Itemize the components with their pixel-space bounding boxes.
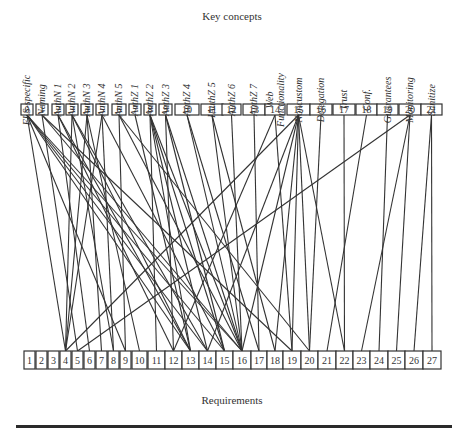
concept-label: Monitoring xyxy=(404,77,415,124)
concept-node: 5AuthN 4 xyxy=(96,83,108,117)
requirement-node: 22 xyxy=(336,351,353,369)
requirement-id: 9 xyxy=(123,355,128,366)
concept-label: ELS-specific xyxy=(21,74,32,126)
concept-node: 2AuthN 1 xyxy=(52,83,64,117)
requirement-id: 12 xyxy=(169,355,179,366)
requirement-id: 21 xyxy=(322,355,332,366)
concept-node: 16Delegation xyxy=(310,78,332,123)
concept-label: AuthZ 7 xyxy=(248,83,259,117)
requirement-id: 23 xyxy=(357,355,367,366)
requirement-id: 27 xyxy=(427,355,437,366)
requirement-node: 26 xyxy=(405,351,423,369)
requirement-id: 4 xyxy=(63,355,68,366)
requirement-node: 5 xyxy=(72,351,83,369)
concept-label: IAuthZ 5 xyxy=(206,82,217,118)
concept-label: Naming xyxy=(36,84,47,117)
concept-requirement-edge xyxy=(150,115,208,351)
concept-requirement-edge xyxy=(299,115,310,351)
concept-node: 14WebFunctionality xyxy=(264,73,286,128)
concept-label: AuthZ 2 xyxy=(144,84,155,117)
requirement-node: 13 xyxy=(182,351,199,369)
requirement-node: 27 xyxy=(423,351,441,369)
requirement-id: 15 xyxy=(220,355,230,366)
requirement-node: 7 xyxy=(96,351,107,369)
concept-label: AuthN 1 xyxy=(52,83,63,117)
requirement-id: 25 xyxy=(392,355,402,366)
requirement-node: 25 xyxy=(388,351,405,369)
requirement-node: 9 xyxy=(120,351,131,369)
concept-label: Conf. xyxy=(361,89,372,111)
concept-requirement-edge xyxy=(27,115,191,351)
requirement-id: 13 xyxy=(186,355,196,366)
concept-label: AuthN 4 xyxy=(96,83,107,117)
concept-requirement-edge xyxy=(174,115,276,351)
concept-node: 7AuthZ 1 xyxy=(129,84,141,117)
concept-label: Guarantees xyxy=(382,77,393,124)
concept-label: AuthN 3 xyxy=(81,83,92,117)
concept-requirement-edge xyxy=(310,115,322,351)
requirement-id: 5 xyxy=(75,355,80,366)
requirement-node: 24 xyxy=(370,351,388,369)
concept-requirement-edge xyxy=(432,115,433,351)
requirement-id: 22 xyxy=(340,355,350,366)
requirement-id: 26 xyxy=(409,355,419,366)
concept-node: 1Naming xyxy=(36,84,48,117)
requirement-id: 18 xyxy=(270,355,280,366)
requirement-id: 10 xyxy=(135,355,145,366)
requirement-node: 18 xyxy=(267,351,283,369)
requirement-id: 8 xyxy=(111,355,116,366)
requirements-title: Requirements xyxy=(0,394,464,406)
requirement-node: 4 xyxy=(60,351,71,369)
concept-node: 20Monitoring xyxy=(399,77,421,124)
requirement-id: 6 xyxy=(87,355,92,366)
concept-requirement-edge xyxy=(344,115,345,351)
requirement-node: 17 xyxy=(251,351,267,369)
requirement-id: 2 xyxy=(39,355,44,366)
requirement-node: 3 xyxy=(48,351,59,369)
requirement-id: 1 xyxy=(27,355,32,366)
concept-label: AuthN 2 xyxy=(66,83,77,117)
requirement-node: 8 xyxy=(108,351,119,369)
requirement-node: 20 xyxy=(301,351,318,369)
requirement-id: 7 xyxy=(99,355,104,366)
concept-node: 3AuthN 2 xyxy=(66,83,78,117)
requirement-id: 20 xyxy=(305,355,315,366)
concept-requirement-edge xyxy=(414,115,432,351)
requirement-node: 10 xyxy=(132,351,147,369)
concept-requirement-edge xyxy=(242,115,299,351)
requirement-id: 17 xyxy=(254,355,264,366)
requirement-id: 3 xyxy=(51,355,56,366)
concept-requirement-edge xyxy=(232,115,243,351)
concept-node: 12AuthZ 6 xyxy=(222,84,241,117)
requirement-node: 12 xyxy=(165,351,182,369)
requirement-node: 2 xyxy=(36,351,47,369)
concept-node: 17Trust xyxy=(333,89,355,115)
concept-node: 0ELS-specific xyxy=(21,74,33,126)
concept-requirement-edge xyxy=(299,115,345,351)
requirement-node: 14 xyxy=(199,351,216,369)
concept-label: Sanitize xyxy=(426,84,437,116)
concept-node: 15Noncustom xyxy=(287,78,310,124)
concept-node: 8AuthZ 2 xyxy=(144,84,156,117)
concept-node: 18Conf. xyxy=(356,89,377,115)
requirement-id: 16 xyxy=(237,355,247,366)
requirement-id: 11 xyxy=(152,355,162,366)
concept-node: 11IAuthZ 5 xyxy=(201,82,223,118)
concept-requirement-edge xyxy=(212,115,242,351)
concept-label: AuthZ 4 xyxy=(181,84,192,117)
concept-node: 10AuthZ 4 xyxy=(175,84,199,117)
concept-node: 6AuthN 5 xyxy=(112,83,126,117)
concept-node: 19Guarantees xyxy=(377,77,398,124)
requirement-node: 21 xyxy=(318,351,336,369)
concept-requirement-edge xyxy=(58,115,90,351)
edge-layer xyxy=(27,115,432,351)
concept-label: AuthZ 6 xyxy=(226,84,237,117)
concept-label: Delegation xyxy=(315,78,326,123)
requirement-id: 19 xyxy=(287,355,297,366)
concept-requirement-edge xyxy=(275,115,292,351)
requirement-row: 1234567891011121314151617181920212223242… xyxy=(24,351,441,369)
concept-node: 4AuthN 3 xyxy=(81,83,93,117)
requirement-node: 6 xyxy=(84,351,95,369)
concept-label: Trust xyxy=(338,89,349,110)
